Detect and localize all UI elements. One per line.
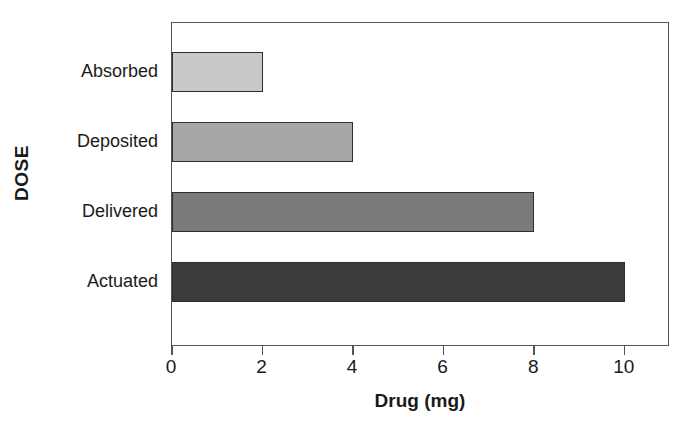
x-tick-2 <box>262 346 264 355</box>
y-tick-label-actuated: Actuated <box>87 261 158 301</box>
plot-area <box>172 23 668 345</box>
plot-frame <box>171 22 669 346</box>
bar-absorbed <box>172 52 263 92</box>
x-tick-10 <box>624 346 626 355</box>
y-tick-label-delivered: Delivered <box>82 191 158 231</box>
x-tick-label-8: 8 <box>528 356 539 378</box>
x-tick-4 <box>352 346 354 355</box>
x-tick-label-10: 10 <box>613 356 634 378</box>
x-axis-tick-marks <box>171 346 669 356</box>
y-tick-label-absorbed: Absorbed <box>81 51 158 91</box>
x-tick-label-4: 4 <box>347 356 358 378</box>
x-axis-title: Drug (mg) <box>171 390 669 412</box>
x-axis-tick-labels: 0246810 <box>171 356 669 382</box>
bar-actuated <box>172 262 625 302</box>
bar-chart-figure: DOSE AbsorbedDepositedDeliveredActuated … <box>0 0 697 435</box>
x-tick-8 <box>533 346 535 355</box>
y-axis-title: DOSE <box>0 0 44 346</box>
bar-deposited <box>172 122 353 162</box>
x-tick-6 <box>443 346 445 355</box>
x-tick-label-2: 2 <box>256 356 267 378</box>
y-axis-title-text: DOSE <box>11 145 33 201</box>
bar-delivered <box>172 192 534 232</box>
x-tick-0 <box>171 346 173 355</box>
x-tick-label-0: 0 <box>166 356 177 378</box>
x-tick-label-6: 6 <box>437 356 448 378</box>
y-tick-label-deposited: Deposited <box>77 121 158 161</box>
y-axis-tick-labels: AbsorbedDepositedDeliveredActuated <box>44 22 166 346</box>
